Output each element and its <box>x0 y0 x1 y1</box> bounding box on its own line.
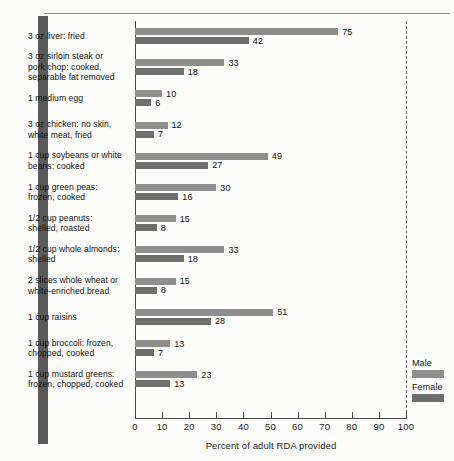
category-label-line: shelled <box>28 254 134 265</box>
bar-value-label: 15 <box>180 214 190 224</box>
x-axis-tick-label: 0 <box>122 421 148 432</box>
x-axis-title: Percent of adult RDA provided <box>135 440 407 451</box>
bar-value-label: 28 <box>215 316 225 326</box>
category-label: 1 cup mustard greens:frozen, chopped, co… <box>28 369 134 390</box>
category-label-line: separable fat removed <box>28 72 134 83</box>
bar-value-label: 16 <box>182 192 192 202</box>
bar-chart-plot-area: 0102030405060708090100 3 oz liver: fried… <box>0 0 454 461</box>
bar-value-label: 51 <box>277 307 287 317</box>
x-axis-tick-label: 40 <box>230 421 256 432</box>
category-label-line: 3 oz chicken: no skin, <box>28 119 134 130</box>
bar-value-label: 33 <box>228 58 238 68</box>
bar-male <box>135 371 197 378</box>
category-label-line: 1 cup mustard greens: <box>28 369 134 380</box>
bar-male <box>135 122 168 129</box>
category-label: 1/2 cup peanuts:shelled, roasted <box>28 213 134 234</box>
bar-female <box>135 193 178 200</box>
bar-value-label: 33 <box>228 245 238 255</box>
bar-female <box>135 162 208 169</box>
bar-value-label: 18 <box>188 254 198 264</box>
category-label: 3 oz liver: fried <box>28 31 134 42</box>
bar-value-label: 27 <box>212 160 222 170</box>
bar-female <box>135 99 151 106</box>
bar-female <box>135 37 249 44</box>
category-label-line: chopped, cooked <box>28 348 134 359</box>
category-label-line: frozen, cooked <box>28 192 134 203</box>
bar-female <box>135 380 170 387</box>
x-axis-tick-label: 100 <box>393 421 419 432</box>
legend-swatch <box>412 394 444 402</box>
bar-male <box>135 59 224 66</box>
bar-value-label: 13 <box>174 379 184 389</box>
bar-female <box>135 224 157 231</box>
bar-female <box>135 349 154 356</box>
x-axis-tick-label: 60 <box>285 421 311 432</box>
bar-female <box>135 318 211 325</box>
bar-value-label: 10 <box>166 89 176 99</box>
legend-entry: Male <box>412 358 454 378</box>
category-label-line: 2 slices whole wheat or <box>28 275 134 286</box>
x-axis-tick-label: 70 <box>312 421 338 432</box>
category-label: 1 cup green peas:frozen, cooked <box>28 182 134 203</box>
bar-value-label: 23 <box>201 370 211 380</box>
x-axis-tick <box>271 412 272 418</box>
bar-male <box>135 90 162 97</box>
category-label: 1 cup broccoli: frozen,chopped, cooked <box>28 338 134 359</box>
category-label-line: 1 cup broccoli: frozen, <box>28 338 134 349</box>
x-axis-tick-label: 50 <box>258 421 284 432</box>
bar-male <box>135 153 268 160</box>
category-label-line: white-enriched bread <box>28 286 134 297</box>
bar-value-label: 18 <box>188 67 198 77</box>
bar-female <box>135 255 184 262</box>
x-axis-tick <box>216 412 217 418</box>
bar-male <box>135 184 216 191</box>
bar-male <box>135 246 224 253</box>
x-axis-tick <box>162 412 163 418</box>
x-axis-tick <box>189 412 190 418</box>
chart-page: 0102030405060708090100 3 oz liver: fried… <box>0 0 454 461</box>
x-axis-tick <box>325 412 326 418</box>
category-label: 1/2 cup whole almonds:shelled <box>28 244 134 265</box>
x-axis-tick <box>379 412 380 418</box>
bar-male <box>135 309 273 316</box>
bar-female <box>135 287 157 294</box>
bar-value-label: 42 <box>253 36 263 46</box>
category-label-line: 3 oz liver: fried <box>28 31 134 42</box>
category-label: 1 medium egg <box>28 93 134 104</box>
x-axis-tick <box>298 412 299 418</box>
category-label: 3 oz sirloin steak orpork chop: cooked,s… <box>28 51 134 83</box>
bar-value-label: 13 <box>174 339 184 349</box>
bar-male <box>135 28 338 35</box>
bar-value-label: 12 <box>172 120 182 130</box>
bar-value-label: 15 <box>180 276 190 286</box>
x-axis-tick-label: 10 <box>149 421 175 432</box>
bar-value-label: 8 <box>161 285 166 295</box>
x-axis-line <box>135 418 407 419</box>
category-label-line: 1/2 cup peanuts: <box>28 213 134 224</box>
category-label-line: 3 oz sirloin steak or <box>28 51 134 62</box>
category-label-line: 1 medium egg <box>28 93 134 104</box>
bar-female <box>135 131 154 138</box>
category-label-line: 1 cup soybeans or white <box>28 150 134 161</box>
x-axis-tick <box>352 412 353 418</box>
x-axis-tick-label: 20 <box>176 421 202 432</box>
bar-male <box>135 340 170 347</box>
legend-label: Male <box>412 358 454 369</box>
category-label-line: frozen, chopped, cooked <box>28 379 134 390</box>
bar-value-label: 7 <box>158 129 163 139</box>
category-label: 1 cup soybeans or whitebeans: cooked <box>28 150 134 171</box>
chart-legend: MaleFemale <box>412 358 454 406</box>
bar-value-label: 30 <box>220 183 230 193</box>
bar-value-label: 75 <box>342 27 352 37</box>
bar-male <box>135 215 176 222</box>
x-axis-tick <box>135 412 136 418</box>
reference-line-100-percent <box>406 21 407 418</box>
legend-swatch <box>412 370 444 378</box>
category-label-line: white meat, fried <box>28 130 134 141</box>
bar-value-label: 8 <box>161 223 166 233</box>
bar-value-label: 6 <box>155 98 160 108</box>
category-label-line: pork chop: cooked, <box>28 62 134 73</box>
x-axis-tick <box>406 412 407 418</box>
category-label-line: shelled, roasted <box>28 223 134 234</box>
category-label-line: beans: cooked <box>28 161 134 172</box>
